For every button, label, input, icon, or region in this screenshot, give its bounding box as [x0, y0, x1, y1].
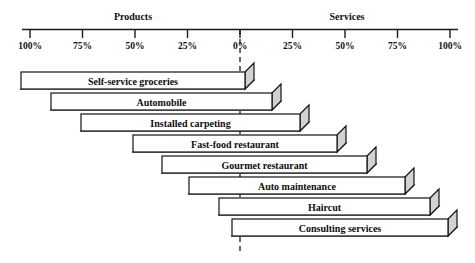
bar-right-face: [300, 105, 309, 131]
bar-label: Consulting services: [299, 223, 382, 234]
bar-right-face: [245, 63, 254, 89]
bar-right-face: [430, 189, 439, 215]
bar-right-face: [272, 84, 281, 110]
group-label-products: Products: [114, 11, 152, 22]
bar-right-face: [337, 126, 346, 152]
axis-tick-label: 75%: [388, 41, 407, 51]
bar-right-face: [367, 147, 376, 173]
bar-label: Self-service groceries: [88, 76, 178, 87]
axis-tick-label: 100%: [438, 41, 462, 51]
product-service-continuum-chart: Products Services 100%75%50%25%0%25%50%7…: [0, 0, 475, 263]
bar-right-face: [448, 210, 457, 236]
bars-group: [21, 63, 457, 236]
chart-canvas: Products Services 100%75%50%25%0%25%50%7…: [0, 0, 475, 263]
axis-tick-label: 100%: [18, 41, 42, 51]
axis-tick-label: 50%: [126, 41, 145, 51]
bar-label: Haircut: [308, 202, 342, 213]
bar-label: Auto maintenance: [258, 181, 337, 192]
axis-tick-label: 25%: [283, 41, 302, 51]
bar-label: Installed carpeting: [150, 118, 230, 129]
bar-label: Automobile: [137, 97, 188, 108]
bar-label: Fast-food restaurant: [191, 139, 280, 150]
axis-tick-label: 75%: [73, 41, 92, 51]
bar-right-face: [405, 168, 414, 194]
axis-tick-label: 25%: [178, 41, 197, 51]
group-label-services: Services: [330, 11, 365, 22]
axis-tick-label: 50%: [336, 41, 355, 51]
bar-label: Gourmet restaurant: [221, 160, 308, 171]
